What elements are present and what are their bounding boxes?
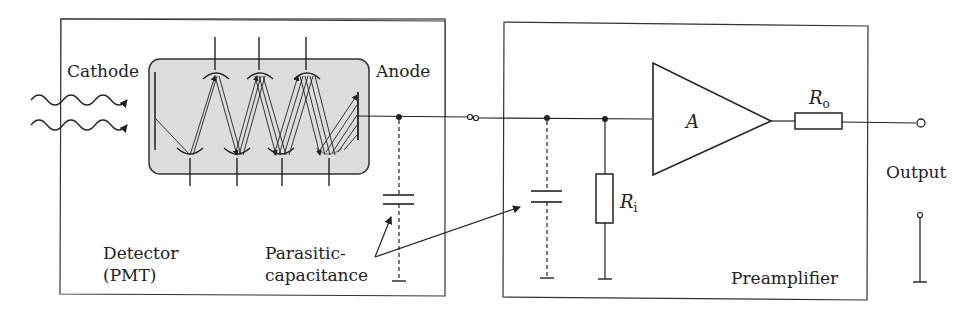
amplifier-gain-label: A [684,111,699,132]
connector-icon [474,116,479,121]
preamplifier-label: Preamplifier [731,268,839,288]
output-label: Output [886,162,947,182]
connector-icon [468,115,473,120]
pmt-preamplifier-diagram: Cathode [0,0,973,319]
ground-terminal [918,213,923,218]
output-terminal [917,119,925,127]
junction-dot [544,115,550,121]
junction-dot [396,114,402,120]
detector-label-2: (PMT) [103,265,156,285]
parasitic-label: Parasitic- [265,243,346,263]
parasitic-label-2: capacitance [265,265,368,285]
anode-label: Anode [375,61,430,81]
cathode-label: Cathode [67,61,139,81]
detector-label: Detector [103,243,179,263]
